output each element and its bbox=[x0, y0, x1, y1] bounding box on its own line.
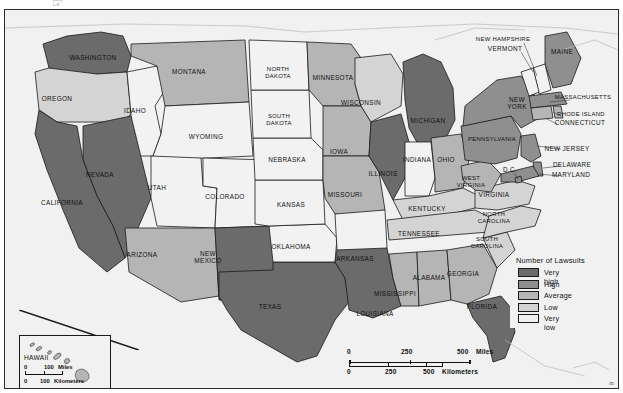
legend-swatch bbox=[518, 314, 539, 323]
leader-line bbox=[545, 118, 557, 124]
legend-swatch bbox=[518, 291, 539, 300]
state-maine bbox=[545, 32, 581, 88]
state-south-dakota bbox=[251, 90, 311, 138]
scale-miles-unit: Miles bbox=[476, 348, 494, 355]
hawaii-title: HAWAII bbox=[24, 354, 49, 361]
corner-mark: m bbox=[609, 380, 614, 386]
legend-swatch bbox=[518, 303, 539, 312]
scale-miles-0: 0 bbox=[347, 348, 351, 355]
state-alabama bbox=[417, 250, 451, 306]
leader-line bbox=[543, 166, 561, 168]
legend-label: Low bbox=[544, 303, 558, 312]
state-massachusetts bbox=[529, 92, 567, 108]
legend-swatch bbox=[518, 268, 539, 277]
state-texas bbox=[219, 262, 349, 362]
state-rhode-island bbox=[553, 106, 563, 118]
legend-label: Very low bbox=[544, 314, 559, 332]
hawaii-miles-100: 100 bbox=[44, 364, 54, 370]
state-connecticut bbox=[531, 106, 553, 120]
hawaii-km-100: 100 bbox=[40, 378, 50, 384]
state-north-carolina bbox=[483, 206, 541, 238]
scale-km-250: 250 bbox=[385, 368, 397, 375]
hawaii-km-0: 0 bbox=[24, 378, 27, 384]
hawaii-miles-unit: Miles bbox=[58, 364, 73, 370]
state-iowa bbox=[323, 106, 371, 156]
state-north-dakota bbox=[249, 40, 309, 90]
scale-miles-500: 500 bbox=[457, 348, 469, 355]
state-nebraska bbox=[253, 138, 323, 180]
coastline-hint bbox=[573, 362, 609, 370]
state-indiana bbox=[405, 142, 435, 196]
state-washington bbox=[43, 32, 131, 74]
legend-swatch bbox=[518, 280, 539, 289]
map-figure: ☞ WASHINGTONOREGONIDAHOMONTANAWYOMINGNEV… bbox=[0, 0, 623, 393]
scale-miles-250: 250 bbox=[401, 348, 413, 355]
coastline-hint bbox=[435, 28, 525, 40]
scale-km-0: 0 bbox=[347, 368, 351, 375]
hawaii-miles-0: 0 bbox=[24, 364, 27, 370]
state-wyoming bbox=[153, 102, 253, 160]
top-ornament: ☞ bbox=[0, 0, 623, 9]
legend-title: Number of Lawsuits bbox=[516, 256, 585, 265]
state-michigan bbox=[403, 54, 455, 146]
scale-bar-line bbox=[349, 360, 471, 364]
map-frame: WASHINGTONOREGONIDAHOMONTANAWYOMINGNEVAD… bbox=[4, 9, 619, 389]
scale-km-500: 500 bbox=[423, 368, 435, 375]
state-minnesota bbox=[307, 42, 361, 106]
scale-bar-main: 0 250 500 Miles 0 250 500 Kilometers bbox=[345, 346, 520, 389]
state-kansas bbox=[255, 180, 325, 226]
state-arizona bbox=[125, 228, 219, 302]
state-new-jersey bbox=[521, 134, 541, 162]
state-oregon bbox=[35, 68, 131, 122]
state-oklahoma bbox=[269, 224, 337, 262]
legend: Number of Lawsuits Very highHighAverageL… bbox=[510, 256, 616, 328]
state-georgia bbox=[447, 244, 497, 304]
scale-km-unit: Kilometers bbox=[442, 368, 478, 375]
hawaii-inset: HAWAII 0 100 Miles 0 100 Kilometers bbox=[19, 335, 111, 389]
legend-label: Average bbox=[544, 291, 572, 300]
hawaii-km-unit: Kilometers bbox=[54, 378, 84, 384]
legend-label: High bbox=[544, 280, 560, 289]
leader-line bbox=[537, 146, 561, 149]
